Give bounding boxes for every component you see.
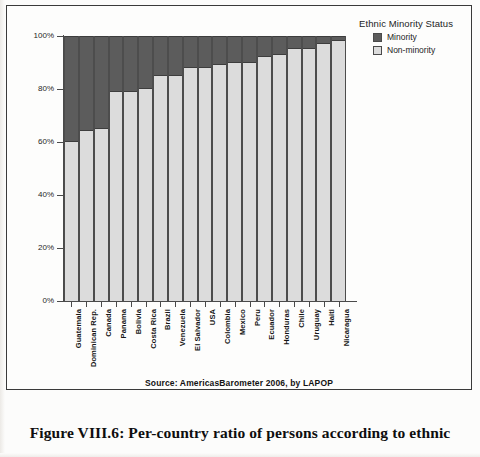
plot-area: [64, 36, 346, 301]
bar-segment-non-minority[interactable]: [154, 76, 167, 301]
bar-segment-non-minority[interactable]: [213, 65, 226, 301]
y-axis-tick-label: 60%: [38, 137, 54, 146]
bar-segment-minority[interactable]: [317, 36, 330, 44]
y-axis-tick: 80%: [57, 89, 63, 90]
x-axis-tick: [190, 302, 191, 307]
x-axis-label: Haiti: [327, 309, 336, 326]
bar-segment-non-minority[interactable]: [169, 76, 182, 301]
bar-segment-minority[interactable]: [124, 36, 137, 92]
bar-column[interactable]: [302, 36, 317, 301]
bar-segment-minority[interactable]: [95, 36, 108, 129]
bar-column[interactable]: [64, 36, 79, 301]
x-axis-label: Peru: [253, 309, 262, 326]
bar-segment-non-minority[interactable]: [199, 68, 212, 301]
legend-swatch-icon: [373, 46, 382, 55]
x-axis-label: Ecuador: [267, 309, 276, 340]
bar-column[interactable]: [94, 36, 109, 301]
x-axis-label: USA: [208, 309, 217, 325]
bar-segment-minority[interactable]: [199, 36, 212, 68]
bar-segment-non-minority[interactable]: [65, 142, 78, 301]
scanned-page: Ethnic Minority Status MinorityNon-minor…: [0, 0, 480, 457]
bar-segment-minority[interactable]: [243, 36, 256, 63]
x-axis-label: Venezuela: [178, 309, 187, 346]
bar-segment-non-minority[interactable]: [110, 92, 123, 301]
scan-edge-left: [0, 0, 5, 457]
bar-segment-minority[interactable]: [139, 36, 152, 89]
bar-segment-minority[interactable]: [184, 36, 197, 68]
bar-column[interactable]: [138, 36, 153, 301]
bar-segment-minority[interactable]: [213, 36, 226, 65]
figure-caption: Figure VIII.6: Per-country ratio of pers…: [10, 424, 470, 442]
bar-segment-non-minority[interactable]: [258, 57, 271, 301]
x-axis-tick: [220, 302, 221, 307]
bar-segment-non-minority[interactable]: [332, 41, 345, 301]
y-axis-tick-label: 40%: [38, 190, 54, 199]
bar-column[interactable]: [212, 36, 227, 301]
x-axis-label: Nicaragua: [342, 309, 351, 346]
bar-segment-non-minority[interactable]: [228, 63, 241, 302]
bar-column[interactable]: [183, 36, 198, 301]
bar-segment-minority[interactable]: [169, 36, 182, 76]
bar-segment-minority[interactable]: [154, 36, 167, 76]
x-axis-label: Brazil: [163, 309, 172, 330]
scan-edge-bottom: [0, 453, 480, 457]
legend-item-label: Minority: [387, 32, 417, 42]
x-axis-label: Costa Rica: [149, 309, 158, 349]
x-axis-tick: [294, 302, 295, 307]
bar-segment-minority[interactable]: [65, 36, 78, 142]
bar-column[interactable]: [79, 36, 94, 301]
bar-segment-non-minority[interactable]: [139, 89, 152, 301]
bar-segment-non-minority[interactable]: [303, 49, 316, 301]
x-axis-tick: [279, 302, 280, 307]
bar-segment-minority[interactable]: [258, 36, 271, 57]
bar-segment-non-minority[interactable]: [243, 63, 256, 302]
bar-segment-non-minority[interactable]: [124, 92, 137, 301]
bar-column[interactable]: [109, 36, 124, 301]
y-axis-tick: 60%: [57, 142, 63, 143]
bar-column[interactable]: [168, 36, 183, 301]
legend-title: Ethnic Minority Status: [359, 18, 469, 29]
x-axis-tick: [160, 302, 161, 307]
legend-item[interactable]: Non-minority: [373, 45, 469, 55]
bar-column[interactable]: [316, 36, 331, 301]
bar-column[interactable]: [123, 36, 138, 301]
bar-segment-non-minority[interactable]: [273, 55, 286, 301]
bar-segment-non-minority[interactable]: [184, 68, 197, 301]
x-axis-tick: [309, 302, 310, 307]
x-axis-label: Canada: [104, 309, 113, 337]
bar-column[interactable]: [287, 36, 302, 301]
bar-column[interactable]: [198, 36, 213, 301]
bar-column[interactable]: [331, 36, 346, 301]
legend-swatch-icon: [373, 33, 382, 42]
bar-column[interactable]: [153, 36, 168, 301]
bar-segment-non-minority[interactable]: [80, 131, 93, 301]
x-axis-label: Panama: [119, 309, 128, 338]
x-axis-tick: [101, 302, 102, 307]
bar-column[interactable]: [227, 36, 242, 301]
x-axis-label: Chile: [297, 309, 306, 328]
x-axis-label: Bolivia: [134, 309, 143, 334]
legend-item-label: Non-minority: [387, 45, 435, 55]
x-axis-tick: [324, 302, 325, 307]
bar-column[interactable]: [257, 36, 272, 301]
bar-segment-minority[interactable]: [288, 36, 301, 49]
bar-segment-minority[interactable]: [273, 36, 286, 55]
x-axis-label: Mexico: [238, 309, 247, 335]
bar-segment-minority[interactable]: [303, 36, 316, 49]
x-axis-tick: [116, 302, 117, 307]
x-axis-label: Dominican Rep.: [89, 309, 98, 367]
source-note: Source: AmericasBarometer 2006, by LAPOP: [7, 378, 471, 388]
y-axis-tick-label: 80%: [38, 84, 54, 93]
chart-legend: Ethnic Minority Status MinorityNon-minor…: [359, 18, 469, 55]
x-axis-line: [57, 301, 357, 302]
legend-item[interactable]: Minority: [373, 32, 469, 42]
bar-segment-non-minority[interactable]: [288, 49, 301, 301]
bar-segment-non-minority[interactable]: [317, 44, 330, 301]
bar-segment-non-minority[interactable]: [95, 129, 108, 301]
bar-column[interactable]: [272, 36, 287, 301]
bar-segment-minority[interactable]: [110, 36, 123, 92]
bar-segment-minority[interactable]: [228, 36, 241, 63]
y-axis-tick: 20%: [57, 248, 63, 249]
bar-column[interactable]: [242, 36, 257, 301]
bar-segment-minority[interactable]: [80, 36, 93, 131]
